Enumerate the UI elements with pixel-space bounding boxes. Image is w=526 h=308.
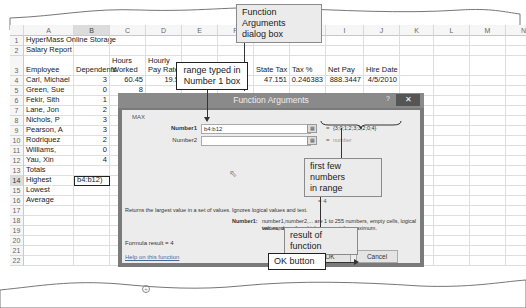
cell-j2[interactable] — [364, 46, 400, 56]
cell-k2[interactable] — [400, 46, 434, 56]
cell-b1[interactable] — [74, 36, 110, 46]
cell-c1[interactable] — [110, 36, 146, 46]
cell-n8[interactable] — [506, 116, 526, 126]
cell-n6[interactable] — [506, 96, 526, 106]
cell-b12[interactable]: 4 — [74, 156, 110, 166]
cell-m21[interactable] — [470, 246, 506, 256]
cell-j3[interactable]: Hire Date — [364, 56, 400, 76]
row-header-11[interactable]: 11 — [10, 146, 24, 156]
column-header-j[interactable]: J — [364, 25, 400, 36]
row-header-18[interactable]: 18 — [10, 216, 24, 226]
cell-h2[interactable] — [290, 46, 326, 56]
cell-i4[interactable]: 888.3447 — [326, 76, 364, 86]
cell-l11[interactable] — [434, 146, 470, 156]
cell-d1[interactable] — [146, 36, 182, 46]
row-header-13[interactable]: 13 — [10, 166, 24, 176]
cell-k1[interactable] — [400, 36, 434, 46]
cell-m14[interactable] — [470, 176, 506, 186]
cell-g2[interactable] — [254, 46, 290, 56]
cell-n7[interactable] — [506, 106, 526, 116]
column-header-k[interactable]: K — [400, 25, 434, 36]
cell-g4[interactable]: 47.151 — [254, 76, 290, 86]
cell-i2[interactable] — [326, 46, 364, 56]
number2-input[interactable] — [201, 136, 311, 146]
cell-l14[interactable] — [434, 176, 470, 186]
cell-l17[interactable] — [434, 206, 470, 216]
cell-k4[interactable] — [400, 76, 434, 86]
cell-b18[interactable] — [74, 216, 110, 226]
row-header-14[interactable]: 14 — [10, 176, 24, 186]
cell-l22[interactable] — [434, 256, 470, 266]
cell-l10[interactable] — [434, 136, 470, 146]
number1-collapse-icon[interactable]: ▦ — [307, 124, 317, 133]
cell-l21[interactable] — [434, 246, 470, 256]
cell-h4[interactable]: 0.246383 — [290, 76, 326, 86]
column-header-l[interactable]: L — [434, 25, 470, 36]
row-header-5[interactable]: 5 — [10, 86, 24, 96]
cell-n14[interactable] — [506, 176, 526, 186]
cell-m8[interactable] — [470, 116, 506, 126]
cell-m2[interactable] — [470, 46, 506, 56]
cell-l19[interactable] — [434, 226, 470, 236]
cell-l8[interactable] — [434, 116, 470, 126]
cell-l12[interactable] — [434, 156, 470, 166]
help-on-function-link[interactable]: Help on this function — [125, 254, 179, 260]
cell-l1[interactable] — [434, 36, 470, 46]
number2-collapse-icon[interactable]: ▦ — [307, 136, 317, 145]
cell-m9[interactable] — [470, 126, 506, 136]
cell-n2[interactable] — [506, 46, 526, 56]
cell-m7[interactable] — [470, 106, 506, 116]
cell-a21[interactable] — [24, 246, 74, 256]
cell-m15[interactable] — [470, 186, 506, 196]
cell-f2[interactable] — [218, 46, 254, 56]
cell-l13[interactable] — [434, 166, 470, 176]
cell-n17[interactable] — [506, 206, 526, 216]
cell-l5[interactable] — [434, 86, 470, 96]
cell-l3[interactable] — [434, 56, 470, 76]
cell-n18[interactable] — [506, 216, 526, 226]
row-header-2[interactable]: 2 — [10, 46, 24, 56]
cell-n21[interactable] — [506, 246, 526, 256]
cell-a17[interactable] — [24, 206, 74, 216]
cell-l20[interactable] — [434, 236, 470, 246]
cell-a22[interactable] — [24, 256, 74, 266]
cell-b21[interactable] — [74, 246, 110, 256]
cell-a20[interactable] — [24, 236, 74, 246]
cell-a16[interactable]: Average — [24, 196, 74, 206]
cell-b20[interactable] — [74, 236, 110, 246]
cell-b14[interactable]: b4:b12) — [74, 176, 110, 186]
cell-n10[interactable] — [506, 136, 526, 146]
cell-n11[interactable] — [506, 146, 526, 156]
cell-b19[interactable] — [74, 226, 110, 236]
cell-m6[interactable] — [470, 96, 506, 106]
cell-m22[interactable] — [470, 256, 506, 266]
help-icon[interactable]: ? — [386, 95, 390, 102]
cell-l18[interactable] — [434, 216, 470, 226]
cell-m18[interactable] — [470, 216, 506, 226]
cell-m16[interactable] — [470, 196, 506, 206]
row-header-15[interactable]: 15 — [10, 186, 24, 196]
column-header-n[interactable]: N — [506, 25, 526, 36]
row-header-4[interactable]: 4 — [10, 76, 24, 86]
column-header-e[interactable]: E — [182, 25, 218, 36]
cell-i3[interactable]: Net Pay — [326, 56, 364, 76]
cell-m1[interactable] — [470, 36, 506, 46]
cell-b16[interactable] — [74, 196, 110, 206]
row-header-22[interactable]: 22 — [10, 256, 24, 266]
cell-n12[interactable] — [506, 156, 526, 166]
cell-m13[interactable] — [470, 166, 506, 176]
cell-m3[interactable] — [470, 56, 506, 76]
cell-b3[interactable]: Dependents — [74, 56, 110, 76]
cell-l16[interactable] — [434, 196, 470, 206]
column-header-d[interactable]: D — [146, 25, 182, 36]
cell-m4[interactable] — [470, 76, 506, 86]
cell-m10[interactable] — [470, 136, 506, 146]
row-header-10[interactable]: 10 — [10, 136, 24, 146]
cell-l15[interactable] — [434, 186, 470, 196]
cell-c3[interactable]: HoursWorked — [110, 56, 146, 76]
cell-m17[interactable] — [470, 206, 506, 216]
cell-n3[interactable] — [506, 56, 526, 76]
cell-n20[interactable] — [506, 236, 526, 246]
add-sheet-icon[interactable]: + — [142, 285, 150, 293]
row-header-16[interactable]: 16 — [10, 196, 24, 206]
